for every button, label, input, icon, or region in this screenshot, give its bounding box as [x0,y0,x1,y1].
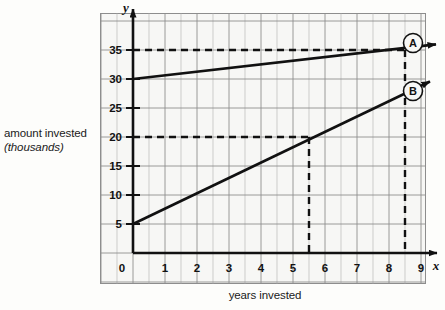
x-tick-1: 1 [162,262,169,274]
y-tick-35: 35 [109,44,122,56]
y-axis-variable-glyph: y [121,0,129,15]
x-axis-variable-glyph: x [432,258,440,273]
x-tick-8: 8 [386,262,393,274]
y-tick-30: 30 [109,73,122,85]
chart-figure: amount invested (thousands) years invest… [0,0,445,310]
series-marker-b-label: B [409,85,417,97]
series-marker-a: A [404,34,423,53]
y-tick-25: 25 [109,102,122,114]
x-tick-4: 4 [258,262,265,274]
x-tick-9: 9 [418,262,424,274]
y-tick-15: 15 [109,160,122,172]
y-tick-20: 20 [109,131,122,143]
x-tick-6: 6 [322,262,328,274]
x-tick-3: 3 [226,262,232,274]
x-tick-2: 2 [194,262,200,274]
series-marker-b: B [404,82,423,101]
series-marker-a-label: A [409,37,417,49]
y-tick-5: 5 [116,218,123,230]
x-tick-7: 7 [354,262,360,274]
x-tick-5: 5 [290,262,297,274]
chart-canvas: 5 10 15 20 25 30 35 0 1 2 3 4 5 6 7 8 9 … [0,0,445,310]
x-tick-0: 0 [119,262,125,274]
y-tick-10: 10 [109,189,122,201]
